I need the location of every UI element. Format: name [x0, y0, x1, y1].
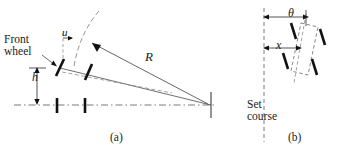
vehicle-steering-diagram: Front wheel u h R θ x Set course (a) (b)	[0, 0, 355, 153]
panel-b-vehicle-body	[291, 14, 318, 83]
set-course-label: Set course	[247, 98, 277, 122]
set-course-label-line1: Set	[247, 98, 277, 110]
panel-b-wheel-front-right	[320, 29, 325, 45]
panel-a-heading-dashed-line	[62, 72, 172, 93]
set-course-label-line2: course	[247, 110, 277, 122]
panel-a-turn-path-arc	[74, 11, 99, 66]
lateral-offset-label: x	[276, 39, 281, 52]
turn-radius-label: R	[145, 50, 153, 64]
heading-angle-label: θ	[288, 7, 294, 20]
offset-height-label: h	[32, 71, 38, 84]
panel-a-front-wheel	[56, 59, 64, 76]
diagram-canvas	[0, 0, 355, 153]
front-wheel-label-line2: wheel	[4, 45, 31, 57]
panel-b-wheel-front-left	[291, 23, 296, 39]
steer-angle-label: u	[62, 27, 68, 39]
panel-b-caption: (b)	[288, 131, 301, 143]
panel-a-caption: (a)	[110, 131, 123, 143]
panel-b-offset-dimension	[263, 45, 302, 50]
panel-b-wheel-rear-right	[312, 59, 317, 75]
front-wheel-label: Front wheel	[4, 33, 31, 57]
front-wheel-label-line1: Front	[4, 33, 31, 45]
panel-a-vehicle-axis	[60, 68, 211, 105]
panel-b-wheel-rear-left	[283, 53, 288, 69]
panel-a-front-wheel-leader	[42, 55, 57, 67]
